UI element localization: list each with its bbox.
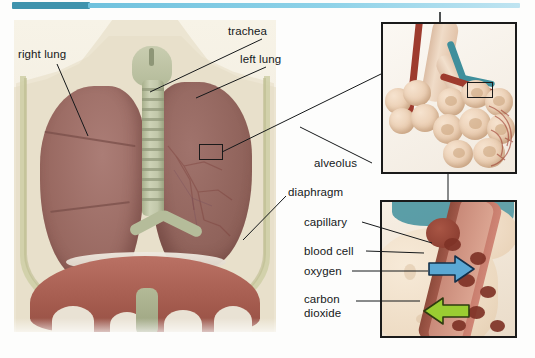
label-right-lung: right lung bbox=[18, 48, 66, 61]
figure-root: right lung trachea left lung diaphragm a… bbox=[0, 0, 535, 358]
capillary-network bbox=[487, 102, 517, 168]
label-blood-cell: blood cell bbox=[304, 245, 354, 258]
alveolus-detail-panel bbox=[381, 22, 517, 174]
alveolus-inner-callout-box bbox=[467, 82, 493, 98]
header-bar-dark-segment bbox=[12, 2, 90, 9]
left-lung-callout-box bbox=[199, 144, 223, 160]
label-capillary: capillary bbox=[304, 216, 347, 229]
thoracic-cavity-illustration bbox=[14, 20, 276, 332]
label-carbon-dioxide-line2: dioxide bbox=[304, 307, 341, 320]
gas-exchange-detail-panel bbox=[380, 200, 517, 338]
label-alveolus: alveolus bbox=[314, 157, 357, 170]
label-carbon-dioxide-line1: carbon bbox=[304, 293, 340, 306]
label-trachea: trachea bbox=[228, 25, 267, 38]
label-left-lung: left lung bbox=[240, 53, 281, 66]
label-diaphragm: diaphragm bbox=[288, 186, 343, 199]
carbon-dioxide-arrow bbox=[422, 296, 470, 326]
larynx-cleft bbox=[149, 48, 154, 66]
header-bar-light-segment bbox=[88, 3, 520, 8]
illustration-bottom-fade bbox=[14, 318, 276, 332]
label-oxygen: oxygen bbox=[304, 265, 342, 278]
oxygen-arrow bbox=[428, 254, 476, 284]
alveolar-sac-cluster-left bbox=[385, 80, 439, 138]
trachea-shape bbox=[142, 80, 164, 216]
